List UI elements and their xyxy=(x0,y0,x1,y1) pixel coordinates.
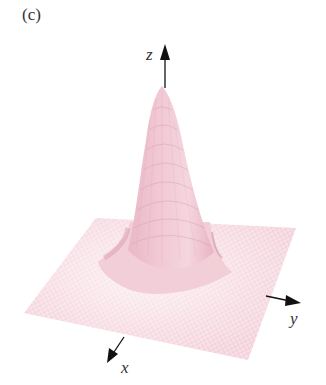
x-axis-label: x xyxy=(120,358,129,377)
gaussian-peak xyxy=(128,86,214,269)
surface-plot: z y x xyxy=(0,0,326,385)
z-axis: z xyxy=(145,44,170,88)
z-axis-label: z xyxy=(145,45,153,64)
y-axis: y xyxy=(266,295,301,328)
x-axis: x xyxy=(107,337,129,377)
y-axis-label: y xyxy=(288,309,298,328)
